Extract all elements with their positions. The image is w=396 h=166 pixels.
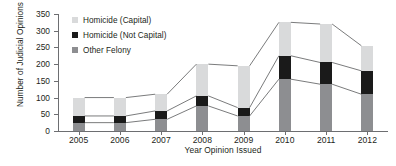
y-tick-label-100: 100 xyxy=(24,93,50,103)
connector-level1-2008-2009 xyxy=(208,96,237,108)
connector-level1-2009-2010 xyxy=(250,56,279,108)
connector-level2-2006-2007 xyxy=(126,94,155,97)
connector-level1-2006-2007 xyxy=(126,111,155,116)
y-tick-label-200: 200 xyxy=(24,59,50,69)
connector-level0-2009-2010 xyxy=(250,79,279,116)
connector-level1-2007-2008 xyxy=(167,96,196,111)
x-tick-label-2009: 2009 xyxy=(224,135,264,145)
connector-level2-2009-2010 xyxy=(250,22,279,65)
x-tick-label-2011: 2011 xyxy=(306,135,346,145)
y-tick-label-50: 50 xyxy=(24,109,50,119)
y-tick-label-300: 300 xyxy=(24,26,50,36)
connector-level0-2007-2008 xyxy=(167,106,196,119)
x-tick-label-2007: 2007 xyxy=(141,135,181,145)
x-tick-label-2010: 2010 xyxy=(265,135,305,145)
legend-label-homicide-capital: Homicide (Capital) xyxy=(83,16,151,25)
connector-level2-2007-2008 xyxy=(167,64,196,94)
connector-level0-2011-2012 xyxy=(332,84,361,94)
y-tick-label-0: 0 xyxy=(24,126,50,136)
x-tick-label-2012: 2012 xyxy=(347,135,387,145)
legend-label-other-felony: Other Felony xyxy=(83,46,131,55)
legend-item-homicide-capital: Homicide (Capital) xyxy=(72,13,166,27)
connector-level2-2008-2009 xyxy=(208,64,237,66)
connector-level0-2010-2011 xyxy=(291,79,320,84)
connector-level2-2010-2011 xyxy=(291,22,320,24)
connector-level0-2006-2007 xyxy=(126,119,155,122)
legend-swatch-icon-homicide-not-capital xyxy=(72,32,78,38)
x-axis-title: Year Opinion Issued xyxy=(58,145,388,155)
legend: Homicide (Capital) Homicide (Not Capital… xyxy=(72,13,166,58)
legend-label-homicide-not-capital: Homicide (Not Capital) xyxy=(83,31,166,40)
stacked-bar-chart: Number of Judicial Opinions 050100150200… xyxy=(0,0,396,166)
y-tick-label-250: 250 xyxy=(24,42,50,52)
y-tick-0 xyxy=(54,131,58,132)
legend-item-other-felony: Other Felony xyxy=(72,43,166,57)
connector-level1-2010-2011 xyxy=(291,56,320,63)
legend-item-homicide-not-capital: Homicide (Not Capital) xyxy=(72,28,166,42)
connector-level2-2011-2012 xyxy=(332,24,361,46)
y-tick-label-350: 350 xyxy=(24,9,50,19)
legend-swatch-icon-homicide-capital xyxy=(72,17,78,23)
connector-level0-2008-2009 xyxy=(208,106,237,116)
x-tick-label-2005: 2005 xyxy=(59,135,99,145)
y-tick-label-150: 150 xyxy=(24,76,50,86)
legend-swatch-icon-other-felony xyxy=(72,47,78,53)
x-tick-label-2008: 2008 xyxy=(182,135,222,145)
x-tick-label-2006: 2006 xyxy=(100,135,140,145)
connector-level1-2011-2012 xyxy=(332,62,361,70)
x-axis-line xyxy=(58,131,388,132)
